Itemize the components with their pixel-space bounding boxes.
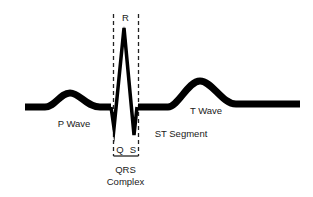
ecg-diagram: R P Wave T Wave ST Segment Q S QRS Compl… xyxy=(0,0,313,197)
label-q: Q xyxy=(116,144,123,155)
label-p-wave: P Wave xyxy=(58,118,91,129)
ecg-waveform-baseline xyxy=(25,81,300,107)
label-st-segment: ST Segment xyxy=(155,128,208,139)
label-s: S xyxy=(130,144,136,155)
label-r: R xyxy=(122,12,129,23)
label-t-wave: T Wave xyxy=(190,105,222,116)
label-qrs: QRS xyxy=(115,164,136,175)
label-complex: Complex xyxy=(107,176,145,187)
